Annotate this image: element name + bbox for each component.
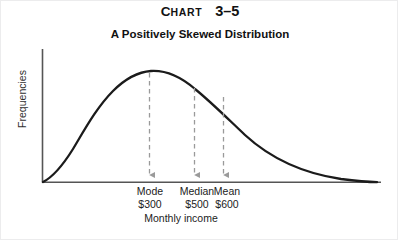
- marker-label-mean: Mean $600: [201, 185, 253, 210]
- distribution-curve: [43, 71, 377, 182]
- marker-label-mean-value: $600: [201, 198, 253, 211]
- x-axis-label: Monthly income: [121, 212, 241, 224]
- marker-label-mean-name: Mean: [201, 185, 253, 198]
- chart-figure: CHART3–5 A Positively Skewed Distributio…: [0, 0, 398, 240]
- y-axis-label: Frequencies: [16, 54, 28, 144]
